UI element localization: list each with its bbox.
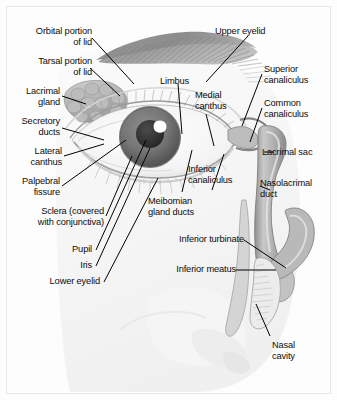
label-superior-canaliculus: Superior canaliculus xyxy=(264,64,334,85)
label-lower-eyelid: Lower eyelid xyxy=(8,276,100,287)
label-limbus: Limbus xyxy=(160,76,208,87)
label-inferior-canaliculus: Inferior canaliculus xyxy=(188,164,246,185)
label-iris: Iris xyxy=(8,260,92,271)
label-meibomian-gland-ducts: Meibomian gland ducts xyxy=(148,196,220,217)
label-lacrimal-gland: Lacrimal gland xyxy=(8,86,60,107)
label-secretory-ducts: Secretory ducts xyxy=(8,116,60,137)
label-inferior-meatus: Inferior meatus xyxy=(148,264,236,275)
label-medial-canthus: Medial canthus xyxy=(195,90,243,111)
label-nasolacrimal-duct: Nasolacrimal duct xyxy=(260,178,334,199)
label-pupil: Pupil xyxy=(8,244,92,255)
label-lacrimal-sac: Lacrimal sac xyxy=(262,147,334,158)
label-upper-eyelid: Upper eyelid xyxy=(215,26,299,37)
label-inferior-turbinate: Inferior turbinate xyxy=(148,234,244,245)
label-palpebral-fissure: Palpebral fissure xyxy=(8,176,60,197)
label-common-canaliculus: Common canaliculus xyxy=(264,98,334,119)
label-sclera: Sclera (covered with conjunctiva) xyxy=(8,206,104,227)
label-tarsal-portion-of-lid: Tarsal portion of lid xyxy=(8,56,92,77)
label-lateral-canthus: Lateral canthus xyxy=(8,146,62,167)
label-orbital-portion-of-lid: Orbital portion of lid xyxy=(8,26,92,47)
corneal-highlight xyxy=(154,120,167,132)
label-nasal-cavity: Nasal cavity xyxy=(272,340,322,361)
anatomy-figure: Orbital portion of lid Tarsal portion of… xyxy=(0,0,337,400)
